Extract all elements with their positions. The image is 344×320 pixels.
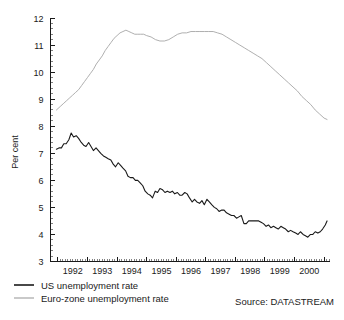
x-axis-tick-labels: 199219931994199519961997199819992000: [63, 266, 320, 276]
series-line-euro-zone: [56, 30, 327, 119]
source-note: Source: DATASTREAM: [235, 296, 334, 307]
y-tick-label: 6: [38, 176, 43, 186]
y-axis-title: Per cent: [10, 135, 20, 169]
y-tick-label: 7: [38, 149, 43, 159]
y-axis-ticks: [51, 18, 55, 262]
y-tick-label: 11: [34, 41, 43, 51]
x-tick-label: 1993: [92, 266, 112, 276]
y-axis-tick-labels: 3456789101112: [33, 14, 43, 268]
x-tick-label: 1997: [211, 266, 231, 276]
x-axis-ticks: [58, 257, 329, 262]
x-tick-label: 1995: [151, 266, 171, 276]
y-tick-label: 5: [38, 203, 43, 213]
chart-legend: US unemployment rateEuro-zone unemployme…: [14, 280, 169, 304]
x-tick-label: 1992: [63, 266, 83, 276]
y-tick-label: 4: [38, 230, 43, 240]
series-line-us: [56, 133, 327, 237]
legend-label-euro-zone: Euro-zone unemployment rate: [41, 293, 169, 304]
y-tick-label: 12: [33, 14, 43, 24]
y-tick-label: 10: [33, 68, 43, 78]
unemployment-rate-chart-figure: 3456789101112 19921993199419951996199719…: [0, 0, 344, 320]
legend-label-us: US unemployment rate: [41, 280, 138, 291]
x-tick-label: 1994: [122, 266, 142, 276]
y-tick-label: 9: [38, 95, 43, 105]
x-tick-label: 1998: [240, 266, 260, 276]
y-tick-label: 8: [38, 122, 43, 132]
x-tick-label: 1996: [181, 266, 201, 276]
data-series-group: [56, 30, 327, 237]
x-tick-label: 1999: [270, 266, 290, 276]
chart-canvas: 3456789101112 19921993199419951996199719…: [0, 0, 344, 320]
y-tick-label: 3: [38, 257, 43, 267]
x-tick-label: 2000: [299, 266, 319, 276]
